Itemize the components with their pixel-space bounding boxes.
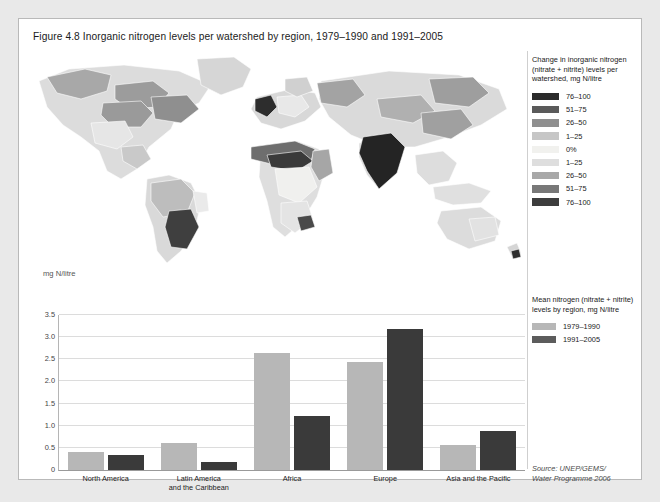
bar-group: Asia and the Pacific [432,315,525,470]
bar-group: Latin Americaand the Caribbean [152,315,245,470]
bar-groups: North AmericaLatin Americaand the Caribb… [59,315,525,470]
map-watershed-nz [511,249,521,259]
y-axis-tick-label: 2.5 [45,354,55,363]
map-legend-item: 26–50 [532,117,636,129]
map-legend-item: 51–75 [532,183,636,195]
map-legend-label: 76–100 [566,92,591,101]
bar [347,362,383,471]
x-axis-category-line: Asia and the Pacific [432,474,525,483]
y-axis-tick-label: 0.5 [45,442,55,451]
map-legend-item: 76–100 [532,196,636,208]
map-legend-title-line-2: (nitrate + nitrite) levels per [532,65,636,75]
map-legend-swatch [532,146,559,153]
x-axis-category-label: Asia and the Pacific [432,474,525,483]
map-legend-label: 51–75 [566,184,587,193]
y-axis-tick-label: 3.5 [45,310,55,319]
x-axis-category-label: Latin Americaand the Caribbean [152,474,245,492]
map-legend-label: 0% [566,145,577,154]
map-watershed-india [359,133,405,189]
x-axis-category-line: Latin America [152,474,245,483]
chart-legend-swatch [532,323,556,330]
map-legend-swatch [532,198,559,205]
bar-chart: mg N/litre 00.51.01.52.02.53.03.5 North … [29,269,527,474]
chart-legend-title-line-1: Mean nitrogen (nitrate + nitrite) [532,295,640,305]
map-legend-item: 1–25 [532,130,636,142]
map-legend-swatch [532,106,559,113]
chart-legend-item: 1979–1990 [532,321,640,332]
map-legend-label: 26–50 [566,118,587,127]
source-line-1: Source: UNEP/GEMS/ [532,464,642,474]
bar [108,455,144,471]
map-legend-swatch [532,132,559,139]
map-legend-item: 1–25 [532,157,636,169]
x-axis-category-label: North America [59,474,152,483]
y-axis-tick-label: 3.0 [45,332,55,341]
map-legend-item: 76–100 [532,91,636,103]
bar [294,416,330,470]
map-land-indonesia [433,183,491,205]
chart-legend-label: 1979–1990 [563,322,600,331]
chart-legend-item: 1991–2005 [532,334,640,345]
map-legend-label: 26–50 [566,171,587,180]
bar [480,431,516,470]
chart-legend-title: Mean nitrogen (nitrate + nitrite) levels… [532,295,640,314]
y-axis-tick-label: 2.0 [45,376,55,385]
y-axis-tick-label: 1.0 [45,420,55,429]
map-legend-item: 26–50 [532,170,636,182]
y-axis-title: mg N/litre [43,269,76,278]
map-legend-label: 76–100 [566,198,591,207]
source-note: Source: UNEP/GEMS/ Water Programme 2006 [532,464,642,484]
map-legend-item: 0% [532,144,636,156]
plot-area: 00.51.01.52.02.53.03.5 North AmericaLati… [58,315,525,471]
y-axis-tick-label: 0 [51,465,55,474]
bar-group: North America [59,315,152,470]
bar [440,445,476,470]
bar [161,443,197,470]
source-line-2: Water Programme 2006 [532,474,642,484]
map-watershed-brazil-south [165,209,199,249]
bar [68,452,104,470]
x-axis-category-line: North America [59,474,152,483]
bar-group: Africa [245,315,338,470]
bar [201,462,237,470]
figure-panel: Figure 4.8 Inorganic nitrogen levels per… [18,18,642,480]
world-map [29,51,524,269]
x-axis-category-label: Africa [245,474,338,483]
map-legend: Change in inorganic nitrogen (nitrate + … [532,55,636,209]
chart-legend-label: 1991–2005 [563,335,600,344]
map-legend-label: 51–75 [566,105,587,114]
y-axis-tick-label: 1.5 [45,398,55,407]
map-legend-swatch [532,159,559,166]
map-legend-label: 1–25 [566,132,582,141]
map-legend-item: 51–75 [532,104,636,116]
map-legend-title-line-3: watershed, mg N/litre [532,74,636,84]
chart-legend-title-line-2: levels by region, mg N/litre [532,305,640,315]
x-axis-category-line: Africa [245,474,338,483]
map-legend-swatch [532,119,559,126]
bar-group: Europe [339,315,432,470]
map-legend-swatch [532,185,559,192]
map-legend-title: Change in inorganic nitrogen (nitrate + … [532,55,636,84]
x-axis-category-line: Europe [339,474,432,483]
map-land-southeast-asia [415,151,457,185]
bar [254,353,290,470]
map-legend-swatch [532,172,559,179]
chart-legend-swatch [532,336,556,343]
x-axis-category-line: and the Caribbean [152,483,245,492]
chart-legend: Mean nitrogen (nitrate + nitrite) levels… [532,295,640,347]
map-legend-swatch [532,93,559,100]
map-legend-title-line-1: Change in inorganic nitrogen [532,55,636,65]
bar [387,329,423,470]
world-map-svg [29,51,524,269]
page-title: Figure 4.8 Inorganic nitrogen levels per… [33,31,443,42]
legend-divider [527,51,528,469]
map-legend-label: 1–25 [566,158,582,167]
x-axis-category-label: Europe [339,474,432,483]
